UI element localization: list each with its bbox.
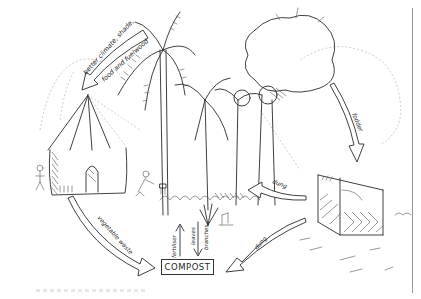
arrow-pen-to-compost [226,218,306,272]
compost-box: COMPOST [161,259,214,275]
garden-plant-icon [200,204,233,225]
label-leaves: leaves [190,227,196,245]
compost-label: COMPOST [165,262,211,272]
label-dung-garden: dung [271,177,288,190]
diagram-canvas: better climate, shade, food and fuelwood… [0,0,421,299]
ground-marks [300,213,411,272]
arrow-compost-to-garden [176,224,184,256]
undergrowth [160,193,260,200]
label-fertiliser: fertiliser [171,234,177,258]
page-edge-line [412,8,413,293]
gardener-icon [136,171,154,196]
faint-caption [36,289,146,292]
label-branches: branches [203,224,209,250]
person-icon [36,165,44,190]
arrow-house-to-compost [68,196,155,276]
livestock-pen-icon [318,175,383,235]
